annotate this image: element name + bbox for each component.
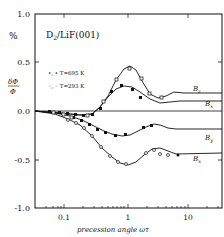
- curve-label-bz: Bz: [192, 85, 201, 94]
- chart-title: D2/LiF(001): [46, 30, 99, 41]
- ytick-label: 0.5: [17, 58, 30, 67]
- ytick-label: 0.0: [17, 107, 30, 116]
- curve-label-bx-lower: Bx: [192, 155, 201, 164]
- ytick-label: -0.5: [15, 156, 30, 165]
- xtick-label: 1: [126, 213, 131, 222]
- y-unit: %: [9, 31, 18, 41]
- xtick-label: 0.1: [58, 213, 70, 222]
- curve-label-by: By: [204, 134, 213, 144]
- chart-svg: 1.0 0.5 0.0 -0.5 -1.0 % δΦ Φ D2/LiF(001)…: [0, 0, 224, 237]
- x-axis-label: precession angle ωτ: [77, 226, 149, 234]
- legend-695K: •, • T=695 K: [48, 70, 85, 76]
- ytick-label: -1.0: [15, 204, 30, 213]
- ytick-label: 1.0: [17, 10, 30, 19]
- legend-293K: ◦, ◦ T=293 K: [48, 83, 85, 89]
- y-label-numerator: δΦ: [8, 78, 18, 86]
- y-label-denominator: Φ: [10, 88, 16, 96]
- xtick-label: 10: [183, 213, 193, 222]
